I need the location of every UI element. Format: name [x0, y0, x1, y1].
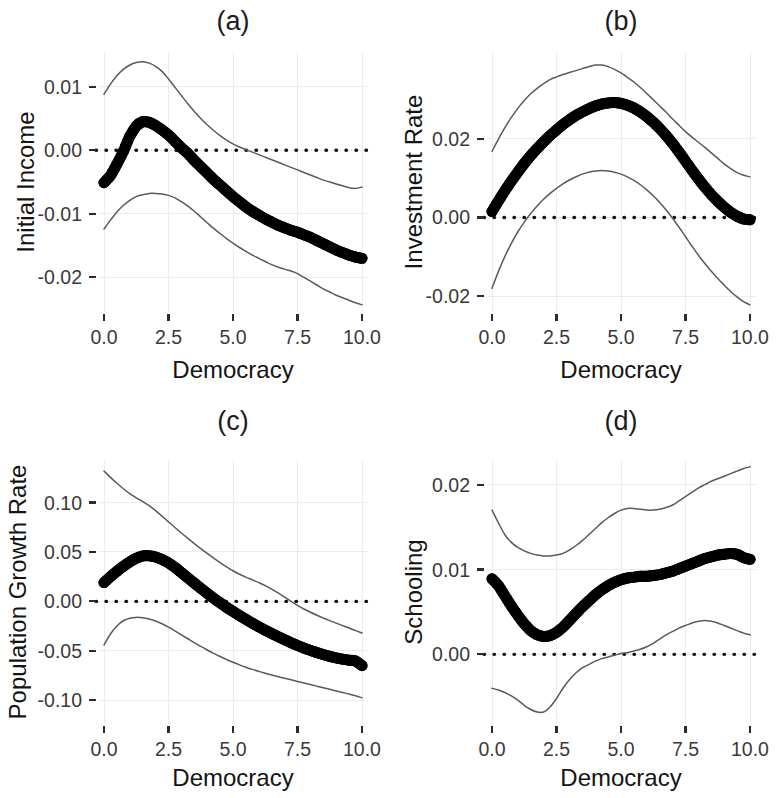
x-tick-label: 2.5: [543, 738, 570, 760]
x-tick-label: 0.0: [90, 326, 117, 348]
x-tick-label: 0.0: [478, 738, 505, 760]
x-axis-label: Democracy: [560, 764, 681, 791]
chart-panel-b: 0.02.55.07.510.00.020.00-0.02(b)Democrac…: [388, 0, 776, 399]
y-axis-label: Initial Income: [12, 111, 39, 252]
y-tick-label: 0.00: [432, 643, 470, 665]
x-tick-label: 5.0: [607, 326, 634, 348]
x-tick-label: 7.5: [284, 326, 311, 348]
y-tick-label: -0.05: [38, 640, 83, 662]
chart-panel-d: 0.02.55.07.510.00.020.010.00(d)Democracy…: [388, 399, 776, 798]
x-tick-label: 7.5: [672, 738, 699, 760]
y-axis-label: Schooling: [400, 539, 427, 644]
x-axis-label: Democracy: [560, 356, 681, 383]
gridlines: [486, 52, 756, 312]
x-axis-label: Democracy: [172, 356, 293, 383]
y-tick-label: -0.01: [38, 203, 82, 225]
panel-title: (a): [217, 6, 250, 36]
chart-panel-a: 0.02.55.07.510.00.010.00-0.01-0.02(a)Dem…: [0, 0, 388, 399]
y-tick-label: -0.02: [38, 266, 82, 288]
y-tick-label: 0.02: [432, 474, 470, 496]
y-tick-label: 0.00: [44, 590, 82, 612]
y-tick-label: 0.05: [44, 541, 82, 563]
chart-panel-c: 0.02.55.07.510.00.100.050.00-0.05-0.10(c…: [0, 399, 388, 798]
x-tick-label: 5.0: [219, 738, 246, 760]
x-tick-label: 0.0: [90, 738, 117, 760]
x-tick-label: 7.5: [284, 738, 311, 760]
y-tick-label: -0.10: [38, 689, 83, 711]
x-tick-label: 7.5: [672, 326, 699, 348]
y-tick-label: 0.02: [432, 128, 470, 150]
x-tick-label: 10.0: [343, 326, 381, 348]
y-axis-label: Investment Rate: [400, 95, 427, 270]
panel-title: (c): [217, 406, 248, 436]
y-tick-label: 0.10: [44, 492, 82, 514]
x-tick-label: 10.0: [343, 738, 381, 760]
x-tick-label: 2.5: [155, 326, 182, 348]
y-tick-label: -0.02: [426, 285, 470, 307]
y-axis-label: Population Growth Rate: [4, 465, 31, 720]
x-tick-label: 2.5: [543, 326, 570, 348]
panel-title: (d): [605, 406, 638, 436]
x-tick-label: 5.0: [607, 738, 634, 760]
x-tick-label: 5.0: [219, 326, 246, 348]
four-panel-figure: 0.02.55.07.510.00.010.00-0.01-0.02(a)Dem…: [0, 0, 776, 798]
y-tick-label: 0.00: [44, 139, 82, 161]
y-tick-label: 0.01: [44, 76, 82, 98]
panel-title: (b): [605, 6, 638, 36]
x-axis-label: Democracy: [172, 764, 293, 791]
y-tick-label: 0.00: [432, 206, 470, 228]
x-tick-label: 10.0: [731, 326, 769, 348]
x-tick-label: 10.0: [731, 738, 769, 760]
x-tick-label: 2.5: [155, 738, 182, 760]
gridlines: [486, 460, 756, 724]
x-tick-label: 0.0: [478, 326, 505, 348]
y-tick-label: 0.01: [432, 559, 470, 581]
